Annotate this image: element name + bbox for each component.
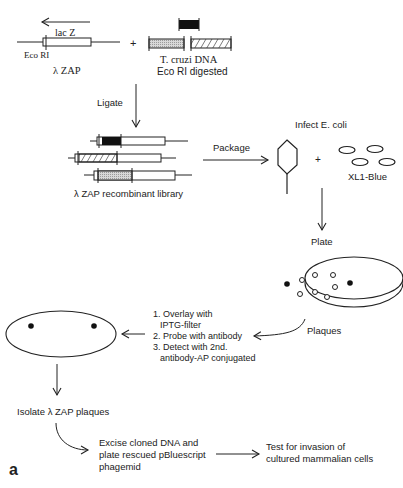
plaques-label: Plaques (307, 325, 342, 336)
infect-label: Infect E. coli (295, 119, 347, 130)
fragment-stippled (149, 39, 184, 48)
insert-label-line1: T. cruzi DNA (160, 54, 218, 65)
screen-step-1: 1. Overlay with (153, 309, 213, 319)
test-line1: Test for invasion of (266, 441, 346, 452)
insert-label-line2: Eco RI digested (157, 66, 228, 77)
lacz-gene-box (43, 38, 91, 46)
screen-step-1b: IPTG-filter (160, 320, 201, 330)
isolate-to-excise-arrow-icon (56, 423, 88, 450)
panel-label: a (9, 461, 18, 478)
isolate-label: Isolate λ ZAP plaques (17, 406, 109, 417)
excise-line1: Excise cloned DNA and (99, 437, 198, 448)
screen-step-2: 2. Probe with antibody (153, 331, 243, 341)
recombinant-library (68, 134, 192, 183)
ecori-site-label: Eco RI (24, 50, 49, 60)
screen-step-3b: antibody-AP conjugated (160, 353, 255, 363)
cloning-workflow-diagram: lac Z Eco RI λ ZAP + T. cruzi DNA Eco RI… (0, 0, 403, 488)
plus-sign-2: + (315, 154, 321, 165)
test-line2: cultured mammalian cells (266, 453, 373, 464)
excise-line2: plate rescued pBluescript (99, 449, 206, 460)
host-strain-label: XL1-Blue (348, 171, 387, 182)
excise-line3: phagemid (99, 461, 141, 472)
tcruzi-fragments (149, 18, 231, 51)
plaques-to-screen-arrow-icon (254, 319, 305, 336)
petri-dish-icon (284, 257, 403, 307)
package-label: Package (213, 142, 250, 153)
lacz-label: lac Z (55, 27, 75, 38)
plate-label: Plate (311, 236, 333, 247)
screen-step-3: 3. Detect with 2nd. (153, 342, 228, 352)
ecoli-cells-icon (339, 146, 395, 166)
vector-name-label: λ ZAP (53, 65, 81, 76)
filter-icon (6, 311, 116, 357)
fragment-hatched (191, 39, 231, 48)
plus-sign-1: + (130, 37, 136, 49)
library-label: λ ZAP recombinant library (74, 188, 183, 199)
phage-icon (278, 140, 297, 194)
ligate-label: Ligate (97, 97, 123, 108)
fragment-solid (179, 20, 199, 29)
